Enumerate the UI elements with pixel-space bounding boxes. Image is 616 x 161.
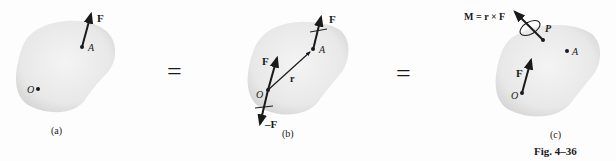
neg-force-label: –F xyxy=(264,118,278,130)
point-p-label: P xyxy=(545,23,552,34)
point-a-label: A xyxy=(318,44,326,55)
point-a-dot xyxy=(311,47,315,51)
moment-equation-label: M = r × F xyxy=(464,11,505,22)
point-a-dot xyxy=(565,49,569,53)
point-a-label: A xyxy=(571,46,579,57)
equals-sign: = xyxy=(167,57,182,86)
rigid-body xyxy=(248,22,349,115)
force-label-at-a: F xyxy=(329,13,336,25)
point-o-label: O xyxy=(256,89,263,100)
point-o-dot xyxy=(36,87,40,91)
panel-sublabel: (b) xyxy=(282,128,294,140)
force-label: F xyxy=(97,12,104,24)
point-o-dot xyxy=(520,91,524,95)
point-p-dot xyxy=(541,38,545,42)
point-o-label: O xyxy=(27,84,34,95)
position-vector-label: r xyxy=(290,73,295,84)
panel-sublabel: (c) xyxy=(550,129,561,141)
rigid-body xyxy=(16,21,115,113)
figure-4-36: F A O (a) = F F –F r A O (b) = xyxy=(0,0,616,161)
figure-caption: Fig. 4–36 xyxy=(534,145,577,157)
point-a-dot xyxy=(80,45,84,49)
point-o-label: O xyxy=(511,90,518,101)
panel-b: F F –F r A O (b) xyxy=(248,13,349,140)
force-label-at-o: F xyxy=(516,67,523,79)
force-label-at-o: F xyxy=(262,55,269,67)
rigid-body xyxy=(496,25,601,117)
point-a-label: A xyxy=(87,42,95,53)
panel-sublabel: (a) xyxy=(51,125,62,137)
equals-sign: = xyxy=(396,59,411,88)
point-o-dot xyxy=(266,88,270,92)
panel-c: M = r × F P A F O (c) Fig. 4–36 xyxy=(464,11,600,157)
panel-a: F A O (a) xyxy=(16,12,115,137)
